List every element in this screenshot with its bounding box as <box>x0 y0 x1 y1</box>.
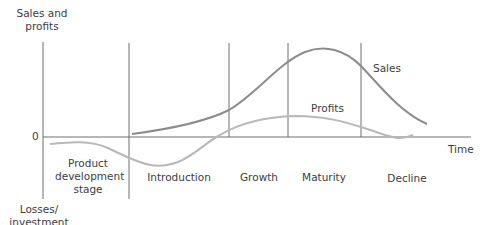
y-axis-label-top: Sales and profits <box>12 7 72 33</box>
profits-label: Profits <box>311 102 344 115</box>
stage-introduction: Introduction <box>139 171 219 184</box>
stage-growth: Growth <box>230 171 288 184</box>
zero-label: 0 <box>32 130 39 143</box>
y-axis-label-bottom: Losses/ investment <box>8 203 70 225</box>
stage-maturity: Maturity <box>293 171 355 184</box>
stage-dev-line3: stage <box>55 183 121 196</box>
x-axis-label: Time <box>448 143 474 156</box>
y-axis-label-bottom-line1: Losses/ <box>8 203 70 216</box>
stage-product-development: Product development stage <box>55 157 121 196</box>
sales-label: Sales <box>373 62 401 75</box>
y-axis-label-bottom-line2: investment <box>8 216 70 225</box>
stage-dev-line2: development <box>55 170 121 183</box>
stage-dev-line1: Product <box>55 157 121 170</box>
stage-decline: Decline <box>372 172 442 185</box>
y-axis-label-top-line2: profits <box>12 20 72 33</box>
y-axis-label-top-line1: Sales and <box>12 7 72 20</box>
